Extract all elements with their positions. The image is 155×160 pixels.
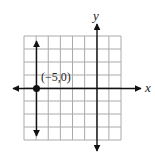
coordinate-plane: x y (−5,0) — [0, 0, 155, 160]
x-axis-label: x — [144, 80, 151, 95]
y-axis-label: y — [91, 8, 99, 23]
point-neg5-0 — [33, 85, 40, 92]
point-label: (−5,0) — [41, 70, 71, 84]
